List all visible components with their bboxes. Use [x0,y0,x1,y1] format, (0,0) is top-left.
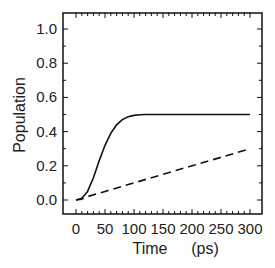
dashed-line-series [76,149,250,200]
x-tick-label: 300 [237,220,262,237]
y-tick-label: 0.6 [36,88,57,105]
x-tick-label: 150 [150,220,175,237]
y-tick-label: 0.2 [36,157,57,174]
data-series [76,115,250,201]
solid-line-series [76,115,250,201]
y-axis-label: Population [11,77,28,153]
x-axis-unit: (ps) [191,240,219,257]
plot-frame [63,13,262,214]
x-tick-label: 250 [208,220,233,237]
x-tick-label: 100 [121,220,146,237]
x-axis-label: Time [133,240,168,257]
x-axis-ticks: 050100150200250300 [72,13,263,237]
population-vs-time-chart: 0.00.20.40.60.81.0 050100150200250300 Po… [0,0,275,268]
y-tick-label: 0.0 [36,191,57,208]
x-tick-label: 50 [97,220,114,237]
y-tick-label: 0.4 [36,123,57,140]
x-tick-label: 0 [72,220,80,237]
y-tick-label: 1.0 [36,20,57,37]
y-tick-label: 0.8 [36,54,57,71]
x-tick-label: 200 [179,220,204,237]
